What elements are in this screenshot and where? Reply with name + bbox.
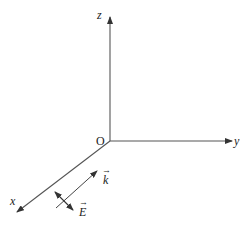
e-vector-label: → E [78, 197, 88, 219]
e-label-text: E [78, 205, 87, 219]
z-axis-label: z [96, 8, 102, 22]
k-vector [56, 171, 97, 208]
k-vector-label: → k [102, 165, 111, 187]
y-axis-label: y [233, 134, 240, 148]
origin-label: O [96, 134, 105, 148]
coordinate-diagram: z y x O → k → E [0, 0, 248, 225]
x-axis-label: x [9, 194, 16, 208]
k-label-text: k [103, 173, 109, 187]
